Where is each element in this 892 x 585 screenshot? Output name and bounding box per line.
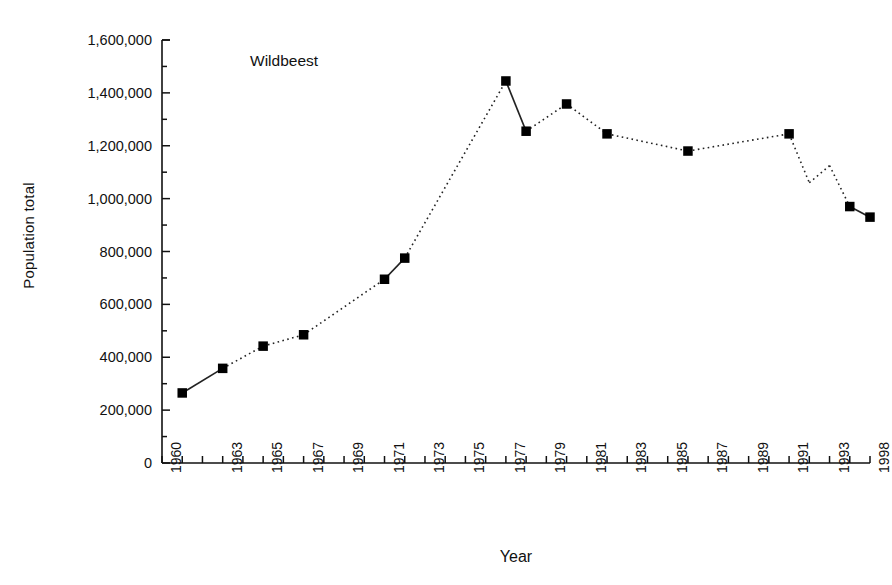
x-tick-label: 1963 [229, 442, 245, 473]
y-tick-label: 800,000 [45, 244, 152, 260]
x-tick-label: 1987 [714, 442, 730, 473]
x-tick-label: 1977 [512, 442, 528, 473]
y-tick-label: 600,000 [45, 296, 152, 312]
x-tick-label: 1960 [168, 442, 184, 473]
y-tick-label: 200,000 [45, 402, 152, 418]
x-tick-label: 1998 [876, 442, 892, 473]
x-tick-label: 1981 [593, 442, 609, 473]
series-title: Wildbeest [250, 52, 318, 70]
x-tick-label: 1993 [836, 442, 852, 473]
x-tick-label: 1969 [350, 442, 366, 473]
x-tick-label: 1979 [552, 442, 568, 473]
x-tick-label: 1971 [391, 442, 407, 473]
x-tick-label: 1975 [471, 442, 487, 473]
x-tick-label: 1991 [795, 442, 811, 473]
x-tick-label: 1983 [633, 442, 649, 473]
y-tick-label: 400,000 [45, 349, 152, 365]
x-tick-label: 1967 [310, 442, 326, 473]
x-tick-label: 1973 [431, 442, 447, 473]
x-tick-label: 1989 [755, 442, 771, 473]
x-tick-label: 1965 [269, 442, 285, 473]
y-tick-label: 1,600,000 [45, 32, 152, 48]
x-axis-label: Year [162, 548, 870, 566]
y-tick-label: 1,000,000 [45, 191, 152, 207]
y-tick-label: 1,400,000 [45, 85, 152, 101]
x-tick-label: 1985 [674, 442, 690, 473]
y-tick-label: 0 [45, 455, 152, 471]
y-tick-label: 1,200,000 [45, 138, 152, 154]
